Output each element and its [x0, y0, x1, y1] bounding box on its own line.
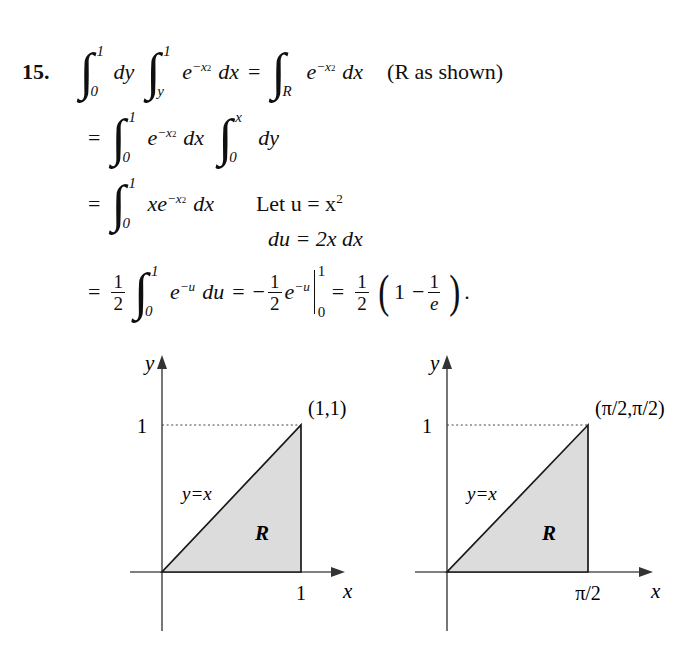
exponential-term-4: xe−x2: [147, 191, 186, 217]
equation-line-4: du = 2x dx: [268, 226, 363, 252]
apex-coordinate-label: (1,1): [308, 397, 346, 420]
equals-sign-4: =: [88, 279, 100, 305]
integral-upper-limit: 1: [128, 109, 136, 126]
differential-dy-2: dy: [258, 125, 279, 151]
minus-sign-2: −: [412, 279, 424, 305]
differential-dy-1: dy: [114, 59, 135, 85]
line-equation-label: y=x: [465, 483, 497, 504]
substitution-text: Let u = x: [256, 191, 336, 216]
x-axis-label: x: [650, 579, 661, 603]
differential-substitution: du = 2x dx: [268, 226, 363, 252]
e-base: e: [170, 279, 180, 304]
integral-upper-limit: 1: [97, 43, 105, 60]
figure-right: y x 1 π/2 (π/2,π/2) y=x R: [415, 345, 685, 645]
line-equation-label: y=x: [180, 483, 212, 504]
minus-sign-1: −: [253, 279, 265, 305]
equation-line-2: = ∫ 1 0 e−x2 dx ∫ x 0 dy: [88, 110, 279, 166]
equals-sign-3: =: [88, 191, 100, 217]
fraction-denominator: 2: [268, 292, 282, 313]
x-axis-arrow: [639, 567, 653, 577]
integral-sign-2: ∫ 1 y: [144, 44, 174, 100]
integral-sign-4: ∫ 1 0: [109, 110, 139, 166]
fraction-one-half-2: 1 2: [268, 272, 282, 313]
exponential-term-5: e−u: [170, 279, 195, 305]
integral-lower-limit: 0: [229, 149, 237, 166]
numeral-one: 1: [394, 279, 405, 305]
e-base: e: [285, 279, 295, 304]
fraction-one-half-3: 1 2: [355, 272, 369, 313]
exponential-term-1: e−x2: [182, 59, 211, 85]
integral-lower-limit: 0: [122, 215, 130, 232]
differential-dx-4: dx: [193, 191, 214, 217]
integral-upper-limit: 1: [128, 175, 136, 192]
fraction-denominator: e: [428, 292, 440, 313]
region-label: R: [254, 521, 269, 545]
equals-sign-6: =: [332, 279, 344, 305]
exponential-term-2: e−x2: [306, 59, 335, 85]
e-base: e: [182, 59, 192, 84]
region-label: R: [541, 521, 556, 545]
substitution-power: 2: [336, 191, 343, 206]
problem-number: 15.: [22, 59, 50, 85]
evaluation-lower-limit: 0: [318, 304, 326, 321]
differential-dx-2: dx: [342, 59, 363, 85]
paren-close: ): [449, 274, 460, 311]
fraction-numerator: 1: [427, 272, 441, 292]
apex-coordinate-label: (π/2,π/2): [595, 397, 665, 420]
equals-sign-1: =: [248, 59, 260, 85]
integral-sign-6: ∫ 1 0: [109, 176, 139, 232]
integral-sign-7: ∫ 1 0: [132, 264, 162, 320]
y-tick-label: 1: [422, 415, 432, 437]
exponent-power: 2: [172, 129, 176, 139]
e-base: e: [306, 59, 316, 84]
fraction-numerator: 1: [268, 272, 282, 292]
fraction-one-over-e: 1 e: [427, 272, 441, 313]
differential-dx-1: dx: [218, 59, 239, 85]
integral-upper-limit: 1: [151, 263, 159, 280]
exponent-body: −u: [180, 279, 196, 294]
x-tick-label: 1: [296, 582, 306, 604]
integral-lower-limit: 0: [145, 303, 153, 320]
exponent-body: −u: [294, 279, 310, 294]
exponent-power: 2: [331, 63, 335, 73]
fraction-denominator: 2: [355, 292, 369, 313]
figure-left: y x 1 1 (1,1) y=x R: [130, 345, 370, 645]
exponent-power: 2: [207, 63, 211, 73]
y-axis-arrow: [442, 355, 452, 369]
integral-sign-1: ∫ 1 0: [78, 44, 108, 100]
integral-upper-limit: x: [235, 109, 242, 126]
y-tick-label: 1: [137, 415, 147, 437]
fraction-one-half-1: 1 2: [111, 272, 125, 313]
evaluation-bar: 1 0: [310, 266, 326, 318]
equals-sign-5: =: [232, 279, 244, 305]
integral-lower-limit: 0: [122, 149, 130, 166]
period-mark: .: [464, 279, 470, 305]
integral-lower-limit: 0: [91, 83, 99, 100]
exponent-body: −x: [157, 125, 172, 140]
integral-sign-5: ∫ x 0: [216, 110, 246, 166]
e-base: e: [147, 125, 157, 150]
region-note: (R as shown): [387, 59, 503, 85]
x-tick-label: π/2: [575, 582, 601, 604]
integral-sign-3: ∫ R: [269, 44, 299, 100]
exponential-term-3: e−x2: [147, 125, 176, 151]
exponential-term-6: e−u: [285, 279, 310, 305]
evaluation-bar-line: [314, 270, 316, 314]
exponent-body: −x: [192, 59, 207, 74]
x-axis-arrow: [331, 567, 345, 577]
document-page: 15. ∫ 1 0 dy ∫ 1 y e−x2 dx = ∫ R e−x2 dx…: [0, 0, 690, 661]
equation-line-3: = ∫ 1 0 xe−x2 dx Let u = x2: [88, 176, 343, 232]
equation-line-5: = 1 2 ∫ 1 0 e−u du = − 1 2 e−u 1 0 = 1 2: [88, 264, 470, 320]
exponent-body: −x: [167, 191, 182, 206]
e-base: e: [157, 191, 167, 216]
differential-dx-3: dx: [183, 125, 204, 151]
paren-open: (: [378, 274, 389, 311]
y-axis-arrow: [157, 355, 167, 369]
integral-lower-limit: R: [282, 83, 291, 100]
substitution-note: Let u = x2: [256, 191, 343, 217]
y-axis-label: y: [143, 351, 155, 375]
equals-sign-2: =: [88, 125, 100, 151]
fraction-numerator: 1: [111, 272, 125, 292]
evaluation-upper-limit: 1: [318, 263, 326, 280]
equation-line-1: 15. ∫ 1 0 dy ∫ 1 y e−x2 dx = ∫ R e−x2 dx…: [22, 44, 503, 100]
